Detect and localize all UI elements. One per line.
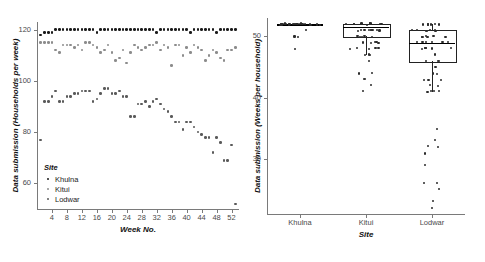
legend-items: KhulnaKituiLodwar [44, 174, 80, 204]
right-y-tick [264, 159, 267, 160]
box-data-point [368, 53, 370, 55]
scatter-point [58, 28, 61, 31]
scatter-point [144, 46, 147, 49]
scatter-point [39, 41, 42, 44]
left-y-tick [34, 132, 37, 133]
scatter-point [223, 159, 226, 162]
right-y-axis-line [267, 18, 268, 214]
scatter-point [88, 28, 91, 31]
box-data-point [297, 36, 299, 38]
box-data-point [436, 73, 438, 75]
box-data-point [369, 22, 371, 24]
right-y-tick [264, 36, 267, 37]
legend-marker-icon [44, 185, 52, 193]
legend-item-label: Khulna [55, 175, 78, 184]
scatter-point [114, 59, 117, 62]
scatter-point [96, 46, 99, 49]
scatter-point [144, 100, 147, 103]
scatter-point [103, 28, 106, 31]
box-data-point [362, 41, 364, 43]
right-x-tick-label: Kitui [339, 219, 393, 227]
box-data-point [377, 42, 379, 44]
box-data-point [288, 23, 290, 25]
scatter-point [219, 141, 222, 144]
scatter-point [170, 64, 173, 67]
scatter-point [159, 103, 162, 106]
box-data-point [357, 30, 359, 32]
box-data-point [366, 24, 368, 26]
box-data-point [426, 91, 428, 93]
scatter-point [167, 110, 170, 113]
scatter-point [125, 95, 128, 98]
left-y-tick-label: 100 [7, 77, 31, 85]
scatter-point [58, 51, 61, 54]
box-data-point [280, 23, 282, 25]
box-data-point [293, 35, 295, 37]
scatter-point [129, 28, 132, 31]
box-data-point [434, 30, 436, 32]
box-data-point [380, 23, 382, 25]
box-data-point [421, 36, 423, 38]
scatter-point [182, 54, 185, 57]
legend-item-kitui[interactable]: Kitui [44, 184, 80, 194]
box-data-point [431, 47, 433, 49]
scatter-point [200, 133, 203, 136]
right-x-axis-title: Site [267, 230, 465, 239]
scatter-point [133, 115, 136, 118]
box-data-point [300, 22, 302, 24]
box-data-point [422, 23, 424, 25]
scatter-point [51, 95, 54, 98]
box-data-point [434, 23, 436, 25]
scatter-point [148, 105, 151, 108]
whisker-lower [432, 61, 433, 92]
scatter-point [234, 203, 237, 206]
right-x-tick-label: Lodwar [405, 219, 459, 227]
box-data-point [434, 66, 436, 68]
scatter-point [129, 115, 132, 118]
scatter-point [73, 28, 76, 31]
scatter-point [47, 41, 50, 44]
box-data-point [304, 23, 306, 25]
scatter-point [73, 46, 76, 49]
scatter-point [200, 28, 203, 31]
scatter-point [189, 51, 192, 54]
scatter-point [204, 59, 207, 62]
scatter-point [111, 92, 114, 95]
box-data-point [377, 47, 379, 49]
scatter-point [39, 34, 42, 37]
box-data-point [434, 53, 436, 55]
scatter-point [215, 31, 218, 34]
scatter-point [51, 41, 54, 44]
left-x-axis-title: Week No. [37, 225, 239, 234]
scatter-point [170, 28, 173, 31]
scatter-point [167, 46, 170, 49]
scatter-point [99, 28, 102, 31]
scatter-point [111, 51, 114, 54]
box-data-point [438, 90, 440, 92]
scatter-point [122, 95, 125, 98]
scatter-point [66, 95, 69, 98]
legend-item-lodwar[interactable]: Lodwar [44, 194, 80, 204]
scatter-point [189, 121, 192, 124]
left-y-tick [34, 81, 37, 82]
right-y-tick-label: 30 [241, 155, 261, 163]
legend-marker-icon [44, 195, 52, 203]
scatter-point [219, 57, 222, 60]
scatter-point [185, 28, 188, 31]
scatter-point [39, 139, 42, 142]
box-data-point [309, 24, 311, 26]
scatter-point [99, 92, 102, 95]
scatter-point [212, 151, 215, 154]
left-x-tick-label: 52 [222, 214, 242, 222]
scatter-point [155, 31, 158, 34]
scatter-point [58, 100, 61, 103]
scatter-point [159, 28, 162, 31]
legend-marker-icon [44, 175, 52, 183]
box-data-point [316, 23, 318, 25]
scatter-point [234, 28, 237, 31]
scatter-point [197, 28, 200, 31]
legend-item-khulna[interactable]: Khulna [44, 174, 80, 184]
box-data-point [436, 128, 438, 130]
scatter-point [174, 121, 177, 124]
box-data-point [319, 24, 321, 26]
